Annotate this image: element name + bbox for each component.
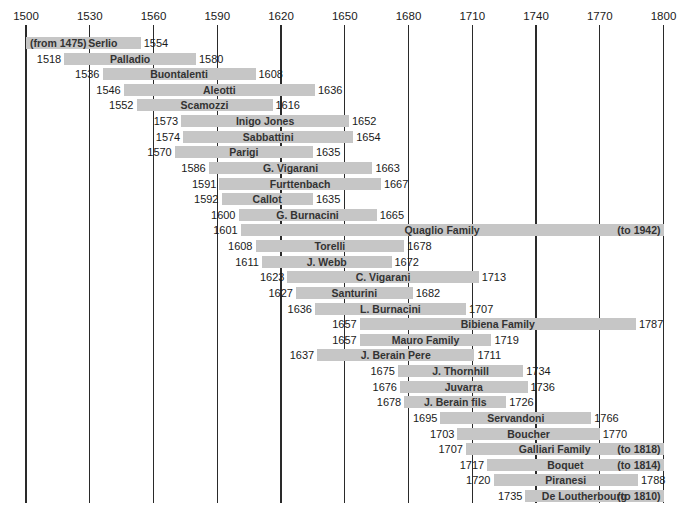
end-label: 1719	[491, 334, 518, 346]
bar-name: Mauro Family	[392, 334, 460, 346]
bar-name: Buontalenti	[150, 68, 208, 80]
bar-name: Aleotti	[203, 84, 236, 96]
end-label: 1616	[273, 99, 300, 111]
end-label: 1734	[523, 365, 550, 377]
start-label: 1678	[377, 396, 404, 408]
end-label: 1663	[372, 162, 399, 174]
end-label: 1635	[313, 146, 340, 158]
x-tick-label: 1770	[587, 10, 613, 22]
end-label: 1736	[528, 381, 555, 393]
bar-name: Galliari Family	[519, 443, 591, 455]
end-label: 1554	[141, 37, 168, 49]
bar-name: C. Vigarani	[356, 271, 411, 283]
bar-name: Boucher	[507, 428, 550, 440]
bar-name: Scamozzi	[181, 99, 229, 111]
x-tick-label: 1530	[77, 10, 103, 22]
end-label: 1652	[349, 115, 376, 127]
x-tick-label: 1740	[523, 10, 549, 22]
start-label: 1546	[96, 84, 123, 96]
end-label: 1654	[353, 131, 380, 143]
x-tick-label: 1680	[396, 10, 422, 22]
bar-name: J. Webb	[307, 256, 347, 268]
start-label: 1637	[290, 349, 317, 361]
start-label: 1623	[260, 271, 287, 283]
bar-name: Parigi	[229, 146, 258, 158]
end-label: 1678	[404, 240, 431, 252]
start-label: 1536	[75, 68, 102, 80]
end-label: 1636	[315, 84, 342, 96]
bar-name: Inigo Jones	[236, 115, 294, 127]
bar-name: Piranesi	[545, 474, 586, 486]
end-label: 1672	[392, 256, 419, 268]
bar-name: Torelli	[315, 240, 346, 252]
start-label: 1591	[192, 178, 219, 190]
start-label: 1573	[154, 115, 181, 127]
bar-name: Palladio	[110, 53, 150, 65]
bar-name: J. Berain Pere	[361, 349, 431, 361]
start-label: 1627	[268, 287, 295, 299]
gridline	[217, 25, 218, 503]
end-label: 1635	[313, 193, 340, 205]
start-label: 1636	[288, 303, 315, 315]
start-label: 1676	[373, 381, 400, 393]
start-label: 1601	[213, 224, 240, 236]
bar-name: L. Burnacini	[360, 303, 421, 315]
end-label: 1608	[256, 68, 283, 80]
end-label: (to 1942)	[617, 224, 663, 236]
bar-name: Santurini	[332, 287, 378, 299]
start-label: 1611	[235, 256, 262, 268]
bar-name: Servandoni	[487, 412, 544, 424]
bar-name: Sabbattini	[243, 131, 294, 143]
bar-name: Quaglio Family	[404, 224, 479, 236]
x-tick-label: 1590	[204, 10, 230, 22]
x-tick-label: 1710	[459, 10, 485, 22]
bar-name: Furttenbach	[270, 178, 331, 190]
end-label: 1726	[506, 396, 533, 408]
bar-name: J. Berain fils	[424, 396, 486, 408]
bar-name: Boquet	[547, 459, 583, 471]
end-label: (to 1818)	[617, 443, 663, 455]
bar-name: Juvarra	[445, 381, 483, 393]
end-label: 1787	[636, 318, 663, 330]
gridline	[663, 25, 664, 503]
end-label: 1682	[413, 287, 440, 299]
start-label: 1735	[498, 490, 525, 502]
start-label: (from 1475)	[26, 37, 87, 49]
gridline	[89, 25, 90, 503]
start-label: 1592	[194, 193, 221, 205]
gridline	[153, 25, 154, 503]
end-label: 1788	[638, 474, 665, 486]
bar-name: G. Burnacini	[276, 209, 338, 221]
start-label: 1586	[181, 162, 208, 174]
end-label: 1713	[479, 271, 506, 283]
x-tick-label: 1800	[651, 10, 677, 22]
start-label: 1695	[413, 412, 440, 424]
start-label: 1552	[109, 99, 136, 111]
start-label: 1608	[228, 240, 255, 252]
start-label: 1574	[156, 131, 183, 143]
start-label: 1570	[147, 146, 174, 158]
end-label: 1766	[591, 412, 618, 424]
gridline	[25, 25, 26, 503]
x-tick-label: 1500	[13, 10, 39, 22]
end-label: 1770	[600, 428, 627, 440]
start-label: 1518	[37, 53, 64, 65]
end-label: (to 1814)	[617, 459, 663, 471]
start-label: 1675	[370, 365, 397, 377]
x-tick-label: 1650	[332, 10, 358, 22]
end-label: 1667	[381, 178, 408, 190]
start-label: 1720	[466, 474, 493, 486]
x-tick-label: 1560	[141, 10, 167, 22]
end-label: 1711	[474, 349, 501, 361]
start-label: 1717	[460, 459, 487, 471]
end-label: 1665	[377, 209, 404, 221]
x-tick-label: 1620	[268, 10, 294, 22]
start-label: 1657	[332, 318, 359, 330]
start-label: 1600	[211, 209, 238, 221]
start-label: 1703	[430, 428, 457, 440]
bar-name: J. Thornhill	[432, 365, 489, 377]
timeline-chart: 1500153015601590162016501680171017401770…	[0, 0, 686, 515]
start-label: 1707	[438, 443, 465, 455]
bar-name: Callot	[253, 193, 282, 205]
end-label: 1707	[466, 303, 493, 315]
